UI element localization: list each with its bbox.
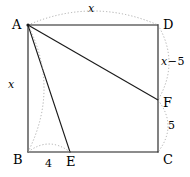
vertex-point-A xyxy=(26,23,29,26)
vertex-label-B: B xyxy=(13,153,23,166)
edge-layer xyxy=(28,25,158,152)
measure-BE-label: 4 xyxy=(45,158,52,169)
measure-FC-label: 5 xyxy=(168,120,175,131)
segment-AF xyxy=(28,25,158,100)
vertex-label-E: E xyxy=(66,155,76,168)
vertex-label-F: F xyxy=(163,96,172,109)
measure-AB-arc xyxy=(28,25,44,152)
vertex-label-C: C xyxy=(163,153,173,166)
vertex-label-A: A xyxy=(12,18,21,31)
geometry-figure: ADFCEBxxx−554 xyxy=(0,0,190,177)
measurement-arc-layer xyxy=(28,11,169,152)
vertex-point-layer xyxy=(26,23,29,26)
measure-DF-label: x−5 xyxy=(161,56,184,67)
geometry-canvas xyxy=(0,0,190,177)
segment-AE xyxy=(28,25,70,152)
vertex-label-D: D xyxy=(163,18,173,31)
measure-AD-label: x xyxy=(88,3,94,14)
measure-AB-label: x xyxy=(8,79,14,90)
measure-BE-arc xyxy=(28,144,70,152)
